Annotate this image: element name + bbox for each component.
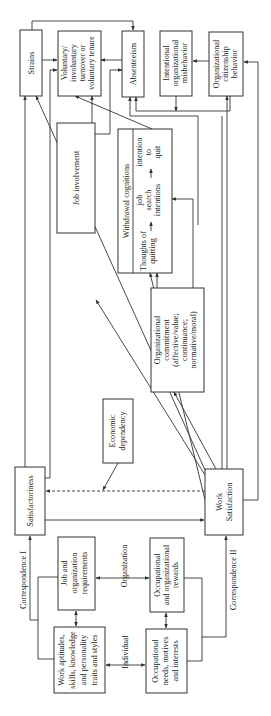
thoughts-line-2: quitting — [148, 238, 157, 263]
aptitudes-line-4: traits and styles — [90, 635, 99, 686]
box-job-org-requirements: Job and organization requirements — [58, 537, 95, 610]
requirements-line-1: Job and — [60, 560, 69, 585]
commitment-line-2: commitment — [162, 319, 171, 361]
rewards-line-2: and organizational — [162, 544, 171, 605]
box-misbehavior: Intentional organizational misbehavior — [160, 31, 192, 96]
search-line-3: intentions — [153, 184, 162, 216]
box-ocb: Organizational citizenship behavior — [209, 32, 243, 96]
commitment-line-1: Organizational — [153, 315, 162, 364]
intention-line-2: to — [144, 149, 153, 155]
intention-line-3: quit — [153, 145, 162, 158]
rewards-line-1: Occupational — [153, 552, 162, 596]
needs-line-3: and interests — [171, 640, 180, 681]
misbehavior-line-1: Intentional — [162, 45, 171, 81]
job-involvement-label: Job involvement — [72, 150, 81, 205]
aptitudes-line-2: skills, knowledge — [68, 631, 77, 689]
box-occupational-needs: Occupational needs, motives and interest… — [146, 629, 187, 693]
box-strains: Strains — [20, 30, 42, 96]
economic-line-2: dependency — [118, 411, 127, 451]
box-turnover: Voluntary/ involuntary turnover or volun… — [58, 31, 101, 96]
withdrawal-title: Withdrawal cognitions — [122, 164, 131, 238]
box-org-commitment: Organizational commitment (affective/val… — [151, 288, 204, 392]
requirements-line-3: requirements — [80, 552, 89, 595]
box-economic-dependency: Economic dependency — [103, 399, 133, 463]
intention-line-1: intention — [135, 137, 144, 166]
label-organization: Organization — [120, 545, 129, 588]
search-line-1: job — [135, 195, 144, 206]
label-individual: Individual — [121, 634, 130, 668]
needs-line-2: needs, motives — [161, 637, 170, 686]
aptitudes-line-1: Work aptitudes, — [57, 634, 66, 686]
needs-line-1: Occupational — [151, 638, 160, 682]
economic-line-1: Economic — [108, 414, 117, 448]
label-correspondence-1: Correspondence I — [19, 551, 28, 609]
box-absenteeism: Absenteeism — [122, 31, 144, 97]
ocb-line-2: citizenship — [221, 46, 230, 81]
turnover-line-4: voluntary tenure — [87, 36, 96, 90]
strains-label: Strains — [27, 52, 36, 75]
box-occupational-rewards: Occupational and organizational rewards — [150, 538, 184, 612]
box-work-satisfaction: Work Satisfaction — [205, 469, 243, 535]
absenteeism-label: Absenteeism — [129, 42, 138, 85]
commitment-line-5: normative/moral) — [189, 311, 198, 369]
commitment-line-4: continuance; — [180, 319, 189, 361]
work-satisfaction-line-2: Satisfaction — [225, 483, 234, 522]
diagram-canvas: Satisfactoriness dashed --> Strains Volu… — [0, 0, 271, 716]
turnover-line-2: involuntary — [69, 43, 78, 82]
box-withdrawal-cognitions: Withdrawal cognitions Thoughts of quitti… — [118, 129, 172, 273]
box-work-aptitudes: Work aptitudes, skills, knowledge and pe… — [54, 627, 105, 693]
aptitudes-line-3: and personality — [79, 634, 88, 685]
turnover-line-3: turnover or — [78, 44, 87, 81]
satisfactoriness-label: Satisfactoriness — [26, 475, 35, 526]
misbehavior-line-3: misbehavior — [180, 42, 189, 83]
requirements-line-2: organization — [70, 553, 79, 594]
search-line-2: search — [144, 190, 153, 211]
box-satisfactoriness: Satisfactoriness — [15, 467, 45, 535]
job-involvement-box: Job involvement — [57, 123, 95, 233]
misbehavior-line-2: organizational — [171, 39, 180, 86]
thoughts-line-1: Thoughts of — [139, 231, 148, 271]
label-correspondence-2: Correspondence II — [229, 549, 238, 610]
ocb-line-3: behavior — [230, 49, 239, 78]
ocb-line-1: Organizational — [212, 39, 221, 88]
work-satisfaction-line-1: Work — [215, 492, 224, 511]
commitment-line-3: (affective/value; — [171, 313, 180, 367]
rewards-line-3: rewards — [171, 562, 180, 588]
turnover-line-1: Voluntary/ — [60, 45, 69, 80]
